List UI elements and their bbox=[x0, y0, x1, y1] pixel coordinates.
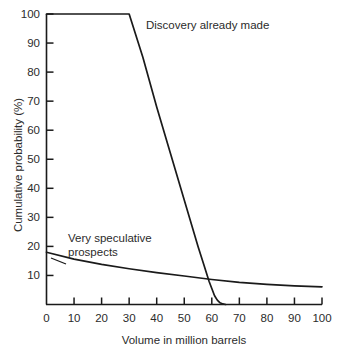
x-tick-label-90: 90 bbox=[288, 312, 301, 324]
x-axis-title: Volume in million barrels bbox=[46, 334, 322, 346]
x-tick-label-40: 40 bbox=[150, 312, 163, 324]
y-tick-label-90: 90 bbox=[0, 37, 40, 49]
x-tick-label-60: 60 bbox=[205, 312, 218, 324]
y-tick-label-10: 10 bbox=[0, 269, 40, 281]
series-line-discovery-already-made bbox=[47, 14, 226, 305]
x-tick-label-80: 80 bbox=[260, 312, 273, 324]
annotation-leader-line bbox=[51, 258, 66, 264]
x-tick-label-70: 70 bbox=[233, 312, 246, 324]
y-tick-label-100: 100 bbox=[0, 8, 40, 20]
annotation-discovery-already-made: Discovery already made bbox=[146, 18, 269, 32]
x-tick-label-30: 30 bbox=[123, 312, 136, 324]
x-tick-label-50: 50 bbox=[178, 312, 191, 324]
annotation-very-speculative-prospects: Very speculative prospects bbox=[68, 231, 152, 259]
cumulative-probability-chart: 102030405060708090100 010203040506070809… bbox=[0, 0, 342, 355]
y-axis-ticks bbox=[47, 14, 54, 275]
x-tick-label-10: 10 bbox=[68, 312, 81, 324]
x-tick-label-0: 0 bbox=[43, 312, 49, 324]
plot-area bbox=[0, 0, 342, 355]
x-tick-label-100: 100 bbox=[312, 312, 331, 324]
x-tick-label-20: 20 bbox=[95, 312, 108, 324]
x-axis-ticks bbox=[74, 298, 322, 305]
y-axis-title: Cumulative probability (%) bbox=[12, 65, 24, 265]
